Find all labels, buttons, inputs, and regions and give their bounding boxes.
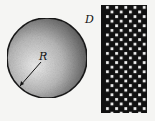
diagram-canvas: R D <box>0 0 155 121</box>
plate-label: D <box>84 13 94 26</box>
diagram-svg: R D <box>0 0 155 121</box>
checkered-plate <box>101 5 147 113</box>
radius-label: R <box>38 50 47 63</box>
plate-edge <box>101 5 105 113</box>
plate-pattern <box>105 5 147 113</box>
